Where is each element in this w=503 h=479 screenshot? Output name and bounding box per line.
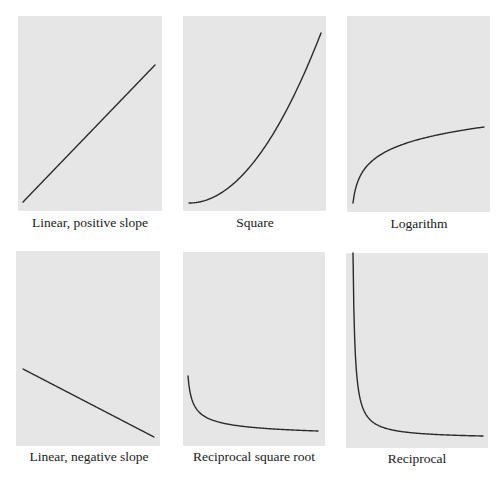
panel-reciprocal-square-root: [183, 252, 325, 446]
linear-positive-curve: [23, 65, 155, 202]
label-logarithm: Logarithm: [339, 216, 499, 232]
label-reciprocal: Reciprocal: [337, 451, 497, 467]
panel-linear-positive: [18, 16, 162, 211]
linear-negative-curve: [23, 369, 154, 437]
label-square: Square: [175, 215, 335, 231]
linear-positive-plot: [18, 16, 162, 211]
square-curve: [189, 33, 321, 203]
panel-logarithm: [347, 16, 490, 212]
panel-square: [183, 16, 326, 211]
reciprocal-plot: [346, 253, 488, 448]
square-plot: [183, 16, 326, 211]
reciprocal-square-root-plot: [183, 252, 325, 446]
logarithm-plot: [347, 16, 490, 212]
panel-reciprocal: [346, 253, 488, 448]
reciprocal-curve: [353, 253, 483, 436]
panel-linear-negative: [16, 251, 160, 446]
label-linear-negative: Linear, negative slope: [9, 449, 169, 465]
logarithm-curve: [353, 127, 484, 203]
label-linear-positive: Linear, positive slope: [10, 215, 170, 231]
linear-negative-plot: [16, 251, 160, 446]
reciprocal-square-root-curve: [188, 376, 318, 431]
label-reciprocal-square-root: Reciprocal square root: [174, 449, 334, 465]
